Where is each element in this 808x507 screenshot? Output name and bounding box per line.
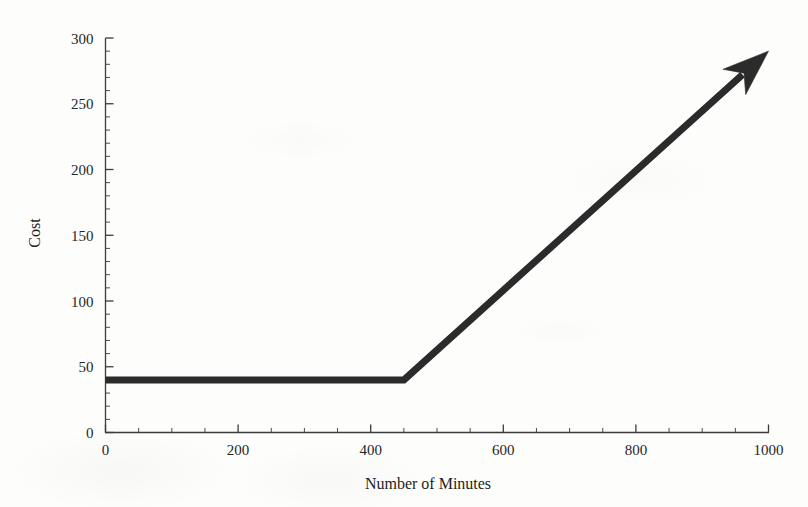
data-series-cost [106,51,769,380]
chart-figure: 050100150200250300 02004006008001000 Cos… [0,0,808,507]
y-tick-label: 200 [71,162,94,178]
y-tick-label: 250 [71,96,94,112]
cost-vs-minutes-line-chart: 050100150200250300 02004006008001000 Cos… [0,0,808,507]
x-tick-label: 400 [359,442,382,458]
x-tick-label: 800 [625,442,648,458]
x-tick-label: 1000 [754,442,784,458]
y-tick-label: 50 [79,359,94,375]
y-tick-label: 100 [71,294,94,310]
y-axis-ticks [106,38,114,433]
x-tick-label: 0 [102,442,110,458]
y-tick-label: 300 [71,31,94,47]
y-tick-label: 150 [71,228,94,244]
x-tick-label: 200 [227,442,250,458]
y-axis-title: Cost [26,218,43,248]
axes-group [105,38,769,433]
y-axis-tick-labels: 050100150200250300 [71,31,94,442]
x-axis-title: Number of Minutes [365,475,491,492]
x-axis-tick-labels: 02004006008001000 [102,442,784,458]
y-tick-label: 0 [86,425,94,441]
x-tick-label: 600 [492,442,515,458]
x-axis-ticks [106,425,769,433]
data-line-cost [106,75,743,380]
